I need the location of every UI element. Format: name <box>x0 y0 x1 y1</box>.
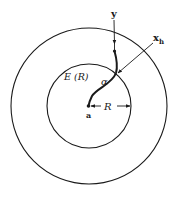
label-radius: R <box>103 101 112 112</box>
center-point <box>87 104 91 108</box>
diagram-canvas: y x h E (R) α R a <box>0 0 176 198</box>
label-y: y <box>110 8 118 19</box>
label-alpha: α <box>101 76 108 87</box>
path-xh-line <box>118 43 153 73</box>
label-center: a <box>86 110 91 120</box>
label-region: E (R) <box>63 71 89 82</box>
path-y-segment <box>114 20 115 44</box>
label-x-subscript: h <box>159 37 164 46</box>
